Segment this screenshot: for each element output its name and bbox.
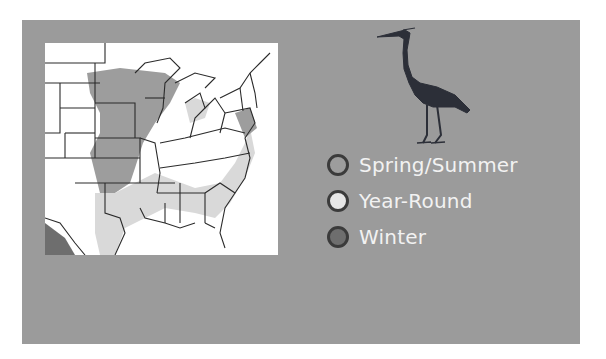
swatch-year-round: [327, 190, 349, 212]
legend: Spring/Summer Year-Round Winter: [327, 147, 518, 255]
swatch-spring-summer: [327, 154, 349, 176]
heron-silhouette-icon: [375, 25, 485, 145]
legend-label: Year-Round: [359, 189, 473, 213]
legend-label: Winter: [359, 225, 426, 249]
swatch-winter: [327, 226, 349, 248]
legend-item-winter: Winter: [327, 219, 518, 255]
legend-item-year-round: Year-Round: [327, 183, 518, 219]
legend-item-spring-summer: Spring/Summer: [327, 147, 518, 183]
range-map: [45, 43, 278, 255]
legend-label: Spring/Summer: [359, 153, 518, 177]
us-states-map: [45, 43, 278, 255]
